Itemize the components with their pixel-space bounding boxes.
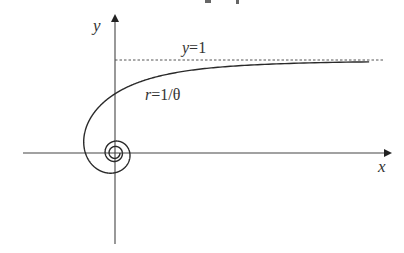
cropped-title-fragment [205, 0, 239, 4]
y-axis-label: y [91, 16, 101, 35]
spiral-curve [84, 62, 369, 173]
asymptote-label: y=1 [180, 39, 206, 57]
curve-equation-rhs: =1/θ [151, 86, 180, 103]
asymptote-label-value: =1 [189, 39, 206, 56]
x-axis-label: x [377, 157, 386, 176]
hyperbolic-spiral-diagram: y x y=1 r=1/θ [0, 0, 404, 253]
curve-equation-label: r=1/θ [145, 86, 180, 103]
